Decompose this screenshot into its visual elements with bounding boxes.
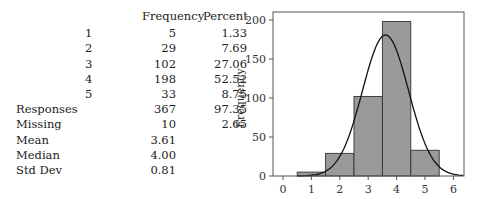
x-axis: 0123456	[280, 176, 457, 196]
x-tick-label: 6	[450, 183, 457, 196]
bars	[297, 22, 439, 176]
x-tick-label: 1	[308, 183, 315, 196]
y-axis: 050100150200	[245, 14, 273, 183]
histogram-bar	[382, 22, 410, 176]
y-tick-label: 150	[245, 53, 266, 66]
x-tick-label: 5	[422, 183, 429, 196]
y-tick-label: 0	[259, 170, 266, 183]
x-tick-label: 0	[280, 183, 287, 196]
x-tick-label: 3	[365, 183, 372, 196]
x-tick-label: 2	[336, 183, 343, 196]
y-tick-label: 200	[245, 14, 266, 27]
histogram-chart: Frequency 050100150200 0123456	[0, 0, 481, 199]
x-tick-label: 4	[393, 183, 400, 196]
y-tick-label: 100	[245, 92, 266, 105]
y-tick-label: 50	[252, 131, 266, 144]
histogram-bar	[411, 150, 439, 176]
